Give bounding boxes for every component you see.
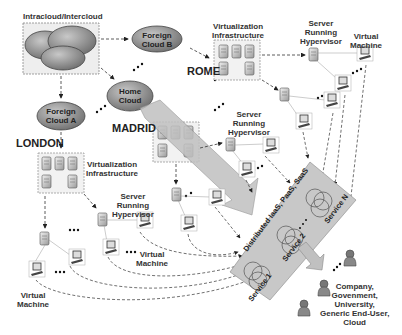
server-label-madrid: ServerRunningHypervisor bbox=[228, 110, 270, 137]
foreign-cloud-a-label: ForeignCloud A bbox=[44, 107, 78, 125]
virt-infra-rome bbox=[214, 40, 260, 80]
vm-label-rome: VirtualMachine bbox=[350, 32, 382, 50]
users-caption: Company, Govenment, University, Generic … bbox=[320, 282, 389, 327]
home-cloud-label: HomeCloud bbox=[115, 87, 145, 105]
server-label-london: ServerRunningHypervisor bbox=[112, 192, 154, 219]
virt-infra-london bbox=[38, 153, 84, 193]
foreign-cloud-b-label: ForeignCloud B bbox=[140, 31, 174, 49]
city-rome: ROME bbox=[187, 65, 220, 77]
intracloud-title: Intracloud/Intercloud bbox=[23, 12, 103, 21]
virt-infra-rome-label: VirtualizationInfrastructure bbox=[212, 22, 264, 40]
vm-label-london-left: VirtualMachine bbox=[17, 291, 49, 309]
city-madrid: MADRID bbox=[112, 122, 156, 134]
vm-label-london-mid: VirtualMachine bbox=[136, 250, 168, 268]
city-london: LONDON bbox=[16, 137, 64, 149]
server-label-rome: ServerRunningHypervisor bbox=[300, 19, 342, 46]
virt-infra-london-label: VirtualizationInfrastructure bbox=[86, 160, 138, 178]
